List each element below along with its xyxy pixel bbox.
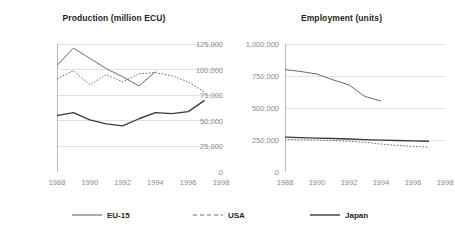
- chart-title-employment: Employment (units): [228, 13, 455, 23]
- legend-swatch-eu15-icon: [72, 211, 102, 219]
- plot-svg-production: [57, 44, 221, 172]
- x-tick-label: 1994: [373, 178, 390, 187]
- x-tick-label: 1992: [341, 178, 358, 187]
- x-tick-label: 1998: [437, 178, 454, 187]
- legend-label-japan: Japan: [345, 211, 368, 220]
- x-tick-label: 1990: [81, 178, 98, 187]
- chart-title-production: Production (million ECU): [0, 13, 228, 23]
- chart-legend: EU-15 USA Japan: [0, 196, 455, 232]
- x-tick-label: 1998: [213, 178, 230, 187]
- plot-area-employment: [285, 44, 445, 172]
- legend-label-usa: USA: [228, 211, 245, 220]
- y-tick-label: 50,000: [200, 116, 223, 125]
- legend-swatch-usa-icon: [193, 211, 223, 219]
- legend-label-eu15: EU-15: [107, 211, 130, 220]
- y-tick-label: 125,000: [196, 40, 223, 49]
- x-tick-label: 1994: [147, 178, 164, 187]
- y-tick-label: 75,000: [200, 91, 223, 100]
- y-tick-label: 0: [219, 168, 223, 177]
- x-tick-label: 1988: [49, 178, 66, 187]
- legend-item-eu15: EU-15: [72, 208, 130, 222]
- chart-figure: Production (million ECU) Employment (uni…: [0, 0, 455, 232]
- y-tick-label: 500,000: [252, 104, 279, 113]
- data-line-eu-15: [285, 70, 381, 101]
- legend-swatch-japan-icon: [310, 211, 340, 219]
- chart-panel-production: Production (million ECU): [0, 0, 228, 192]
- plot-svg-employment: [285, 44, 445, 172]
- legend-item-usa: USA: [193, 208, 245, 222]
- y-tick-label: 0: [275, 168, 279, 177]
- data-line-japan: [57, 100, 205, 126]
- legend-item-japan: Japan: [310, 208, 368, 222]
- y-tick-label: 100,000: [196, 65, 223, 74]
- y-tick-label: 25,000: [200, 142, 223, 151]
- y-tick-label: 750,000: [252, 72, 279, 81]
- x-tick-label: 1992: [114, 178, 131, 187]
- y-tick-label: 1,000,000: [246, 40, 279, 49]
- data-line-japan: [285, 137, 429, 141]
- x-tick-label: 1996: [180, 178, 197, 187]
- data-line-eu-15: [57, 48, 155, 86]
- x-tick-label: 1988: [277, 178, 294, 187]
- y-tick-label: 250,000: [252, 136, 279, 145]
- x-tick-label: 1996: [405, 178, 422, 187]
- x-tick-label: 1990: [309, 178, 326, 187]
- plot-area-production: [57, 44, 221, 172]
